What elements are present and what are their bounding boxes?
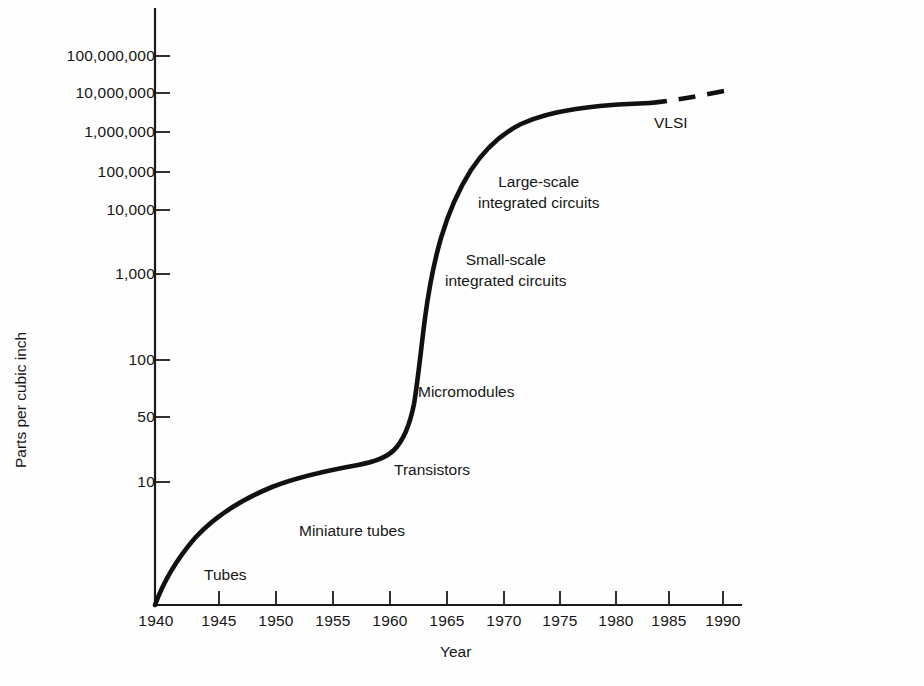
data-curve-dashed xyxy=(650,91,724,103)
x-tick-label: 1965 xyxy=(429,612,464,630)
x-tick-label: 1980 xyxy=(598,612,633,630)
y-tick-label: 10,000 xyxy=(106,201,155,219)
x-tick-label: 1945 xyxy=(201,612,236,630)
axis-lines xyxy=(154,8,742,606)
annotation-vlsi: VLSI xyxy=(654,113,688,134)
y-tick-label: 100,000 xyxy=(98,163,155,181)
y-tick-label: 1,000,000 xyxy=(84,123,155,141)
x-axis-ticks xyxy=(155,591,723,605)
annotation-micromodules: Micromodules xyxy=(418,382,514,403)
chart-container: 100,000,000 10,000,000 1,000,000 100,000… xyxy=(0,0,924,686)
x-tick-label: 1975 xyxy=(542,612,577,630)
y-tick-label: 10,000,000 xyxy=(75,84,155,102)
annotation-tubes: Tubes xyxy=(204,565,247,586)
y-tick-label: 10 xyxy=(137,473,155,491)
x-tick-label: 1955 xyxy=(315,612,350,630)
x-tick-label: 1990 xyxy=(705,612,740,630)
x-tick-label: 1950 xyxy=(258,612,293,630)
annotation-small-scale-ic: Small-scale integrated circuits xyxy=(445,250,566,291)
annotation-large-scale-ic: Large-scale integrated circuits xyxy=(478,172,599,213)
annotation-miniature-tubes: Miniature tubes xyxy=(299,521,405,542)
x-tick-label: 1970 xyxy=(486,612,521,630)
chart-plot-area xyxy=(0,0,924,686)
x-axis-title: Year xyxy=(440,643,471,661)
y-tick-label: 50 xyxy=(137,408,155,426)
annotation-transistors: Transistors xyxy=(394,460,470,481)
y-axis-title: Parts per cubic inch xyxy=(12,332,30,468)
y-tick-label: 100 xyxy=(129,351,155,369)
y-tick-label: 1,000 xyxy=(115,265,155,283)
y-tick-label: 100,000,000 xyxy=(67,47,155,65)
x-tick-label: 1985 xyxy=(651,612,686,630)
x-tick-label: 1960 xyxy=(372,612,407,630)
y-axis-ticks xyxy=(155,56,170,482)
x-tick-label: 1940 xyxy=(138,612,173,630)
